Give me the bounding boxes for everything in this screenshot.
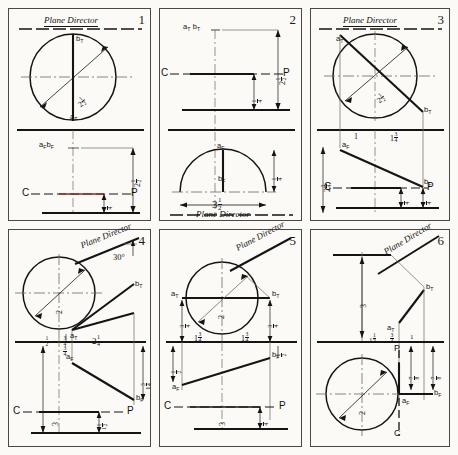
arrowhead (321, 147, 326, 154)
label-c: C (13, 405, 20, 416)
label-p: P (427, 181, 434, 192)
panel-number: 3 (438, 12, 445, 28)
label-c: C (164, 400, 171, 411)
arrowhead (275, 30, 280, 37)
dimension-quarter: 14 (258, 422, 270, 426)
dimension-quarter: 14 (399, 201, 411, 205)
dimension-circle-radius: 2 (55, 310, 64, 314)
arrowhead (180, 300, 185, 306)
point-label-at: aT (336, 34, 344, 43)
dimension-2-three-quarter: 234 (321, 184, 333, 192)
arrowhead (35, 313, 42, 319)
point-label-bt: bT (76, 34, 84, 43)
dimension-circle-radius: 2 (358, 411, 367, 415)
panel-5-graphics (160, 230, 303, 448)
label-p: P (127, 405, 134, 416)
point-label-af: aF (172, 382, 180, 391)
panel-3: Plane Director 3 aT bT aF bF C P 212 1 1… (310, 8, 450, 221)
point-label-at: aT (70, 331, 78, 340)
panel-5: Plane Director 5 aT bT aF bF C P 2 34 34… (159, 229, 302, 447)
dimension-three-quarter-right: 34 (268, 324, 280, 328)
arrowhead (272, 150, 277, 156)
point-label-bt: bT (426, 282, 434, 291)
arrowhead (409, 346, 414, 352)
panel-6-graphics (311, 230, 451, 448)
dimension-half: 12 (45, 336, 49, 348)
dimension-quarter: 14 (252, 99, 264, 103)
dimension-2-half: 212 (131, 179, 143, 187)
point-label-at: aT (171, 289, 179, 298)
dimension-three-quarter-2: 34 (63, 346, 67, 358)
point-label-bf: bF (434, 388, 442, 397)
segment-bt-at-upper (72, 284, 134, 330)
point-label-bf: bF (218, 174, 226, 183)
label-p: P (394, 343, 400, 353)
dimension-3: 3 (51, 422, 60, 426)
label-c: C (22, 187, 29, 198)
dimension-half: 12 (171, 370, 183, 374)
arrowhead (321, 206, 326, 213)
dimension-3-half: 312 (212, 197, 222, 211)
point-label-bt: bT (135, 279, 143, 288)
arrowhead (431, 346, 436, 352)
dimension-2-quarter: 214 (92, 335, 101, 347)
panel-4: Plane Director 4 30° bT aT aF bF C P 2 3… (8, 229, 151, 447)
dimension-1: 1 (410, 333, 414, 341)
panel-2: 2 Plane Director aT bT aF bF C P 212 14 … (159, 8, 302, 221)
point-label-atbt: aT bT (183, 22, 200, 31)
arrowhead (130, 206, 135, 213)
arrowhead (258, 407, 263, 413)
plane-director-label: Plane Director (196, 209, 250, 220)
arrowhead (102, 194, 107, 200)
arrowhead (360, 257, 365, 264)
arrowhead (130, 148, 135, 155)
angle-label-30: 30° (113, 252, 125, 262)
segment-af-bf (182, 358, 270, 385)
arrowhead (180, 202, 187, 207)
dimension-quarter-2: 14 (272, 177, 284, 181)
dimension-3: 3 (359, 304, 368, 308)
arrowhead (272, 186, 277, 192)
label-c: C (394, 428, 401, 438)
dimension-three-quarter-left: 34 (180, 324, 192, 328)
drawing-sheet: Plane Director 1 bT aT aFbF C P 212 212 … (0, 0, 458, 455)
arrowhead (268, 300, 273, 306)
segment-af-bf (72, 363, 134, 400)
leader-line (391, 255, 424, 287)
arrowhead (171, 346, 176, 352)
arrowhead (259, 202, 266, 207)
point-label-af: aF (66, 352, 74, 361)
dimension-7-8: 78 (409, 376, 421, 380)
point-label-bt: bT (272, 289, 280, 298)
dimension-quarter-2: 14 (421, 201, 433, 205)
dimension-1-three-quarter: 134 (390, 132, 398, 144)
panel-number: 5 (290, 233, 297, 249)
arrowhead (198, 319, 205, 325)
panel-number: 2 (290, 12, 297, 28)
dimension-half-2: 12 (276, 353, 288, 357)
point-label-afbf: aFbF (39, 140, 54, 149)
panel-6: Plane Director 6 bT aT aF bF P C 3 112 3… (310, 229, 450, 447)
panel-number: 4 (139, 233, 146, 249)
point-label-af: aF (217, 141, 225, 150)
point-label-at: aT (70, 112, 78, 121)
dimension-1-three-quarter-right: 134 (241, 332, 249, 344)
point-label-af: aF (402, 396, 410, 405)
plane-director-label: Plane Director (343, 15, 397, 27)
panel-number: 1 (139, 12, 146, 28)
panel-number: 6 (438, 233, 445, 249)
plane-director-label: Plane Director (44, 15, 98, 27)
dimension-3: 3 (218, 422, 227, 426)
dimension-7-8-b: 78 (431, 376, 443, 380)
point-label-bt: bT (424, 105, 432, 114)
arrowhead (360, 331, 365, 338)
point-label-bf: bF (136, 393, 144, 402)
label-p: P (279, 400, 286, 411)
panel-1: Plane Director 1 bT aT aFbF C P 212 212 … (8, 8, 151, 221)
arrowhead (339, 415, 346, 421)
arrowhead (41, 426, 46, 433)
point-label-af: aF (342, 140, 350, 149)
arrowhead (275, 103, 280, 110)
dimension-1-three-quarter: 134 (141, 383, 153, 390)
dimension-quarter: 14 (102, 206, 114, 210)
